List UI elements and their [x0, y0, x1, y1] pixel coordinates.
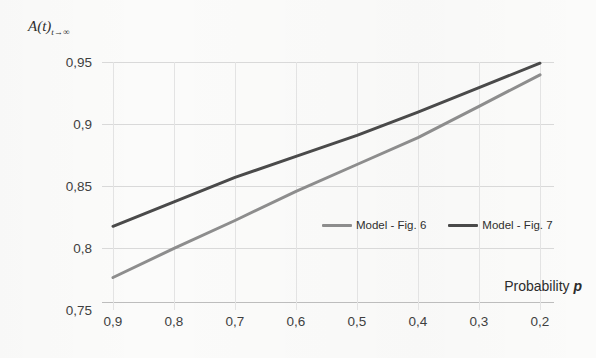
x-tick-label: 0,9: [83, 314, 143, 329]
legend-swatch-icon: [322, 224, 352, 227]
x-axis-title-main: Probability: [504, 278, 569, 294]
chart-legend: Model - Fig. 6 Model - Fig. 7: [322, 219, 553, 231]
x-axis-title: Probability p: [504, 278, 582, 294]
y-axis-title-subscript: t→∞: [51, 27, 70, 37]
legend-item-model-fig-6: Model - Fig. 6: [322, 219, 426, 231]
legend-item-model-fig-7: Model - Fig. 7: [448, 219, 552, 231]
legend-swatch-icon: [448, 224, 478, 227]
x-tick-label: 0,5: [327, 314, 387, 329]
y-tick-label: 0,85: [22, 179, 92, 194]
y-tick-label: 0,95: [22, 55, 92, 70]
y-axis-title: A(t)t→∞: [28, 18, 70, 37]
x-tick-label: 0,4: [388, 314, 448, 329]
x-tick-label: 0,3: [449, 314, 509, 329]
x-tick-label: 0,7: [205, 314, 265, 329]
series-layer: [102, 62, 554, 310]
series-line-model-fig-7: [113, 63, 540, 226]
y-axis-tick-labels: 0,75 0,8 0,85 0,9 0,95: [0, 62, 92, 310]
legend-label: Model - Fig. 6: [356, 219, 426, 231]
y-tick-label: 0,9: [22, 117, 92, 132]
chart-screenshot: A(t)t→∞ 0,75 0,8 0,85 0,9 0,95 Model - F…: [0, 0, 596, 358]
y-tick-label: 0,8: [22, 241, 92, 256]
series-line-model-fig-6: [113, 75, 540, 278]
y-axis-title-main: A(t): [28, 18, 51, 34]
y-tick-label: 0,75: [22, 303, 92, 318]
x-axis-title-variable: p: [573, 278, 582, 294]
x-tick-label: 0,8: [144, 314, 204, 329]
legend-label: Model - Fig. 7: [482, 219, 552, 231]
x-tick-label: 0,6: [266, 314, 326, 329]
plot-area: [102, 62, 554, 310]
x-tick-label: 0,2: [510, 314, 570, 329]
